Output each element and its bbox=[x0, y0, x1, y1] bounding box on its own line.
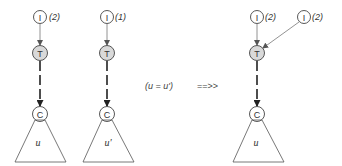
i-node-label: I bbox=[256, 13, 259, 23]
i-node-label: I bbox=[303, 13, 306, 23]
subtree-triangle bbox=[15, 120, 66, 162]
right-tree: I (2) I (2) T C u bbox=[233, 11, 323, 163]
c-node-label: C bbox=[254, 110, 261, 120]
t-node: T bbox=[100, 46, 115, 61]
c-node-label: C bbox=[104, 110, 111, 120]
i-node-2: I bbox=[298, 11, 311, 24]
edge-i2-to-t bbox=[263, 22, 299, 48]
i-node: I bbox=[101, 11, 114, 24]
left-tree: I (2) T C u bbox=[15, 11, 66, 163]
c-node: C bbox=[100, 107, 115, 122]
t-node: T bbox=[33, 46, 48, 61]
diagram-canvas: I (2) T C u I (1) T C u' bbox=[0, 0, 342, 166]
subtree-label: u bbox=[254, 137, 259, 148]
condition-label: (u = u') bbox=[145, 81, 173, 91]
c-node: C bbox=[33, 107, 48, 122]
i-node-count: (2) bbox=[49, 12, 60, 22]
middle-tree: I (1) T C u' bbox=[83, 11, 134, 163]
c-node: C bbox=[250, 107, 265, 122]
subtree-triangle bbox=[233, 120, 284, 162]
i-node-label: I bbox=[106, 13, 109, 23]
transform-arrow: ==>> bbox=[197, 81, 218, 91]
subtree-label: u bbox=[36, 137, 41, 148]
i-node-label: I bbox=[39, 13, 42, 23]
i-node-count: (1) bbox=[115, 12, 126, 22]
c-node-label: C bbox=[37, 110, 44, 120]
i-node-count: (2) bbox=[265, 12, 276, 22]
t-node: T bbox=[250, 46, 265, 61]
t-node-label: T bbox=[104, 49, 110, 59]
i-node: I bbox=[34, 11, 47, 24]
subtree-label: u' bbox=[104, 137, 112, 148]
i-node-1: I bbox=[251, 11, 264, 24]
t-node-label: T bbox=[37, 49, 43, 59]
i-node-count: (2) bbox=[312, 12, 323, 22]
t-node-label: T bbox=[254, 49, 260, 59]
